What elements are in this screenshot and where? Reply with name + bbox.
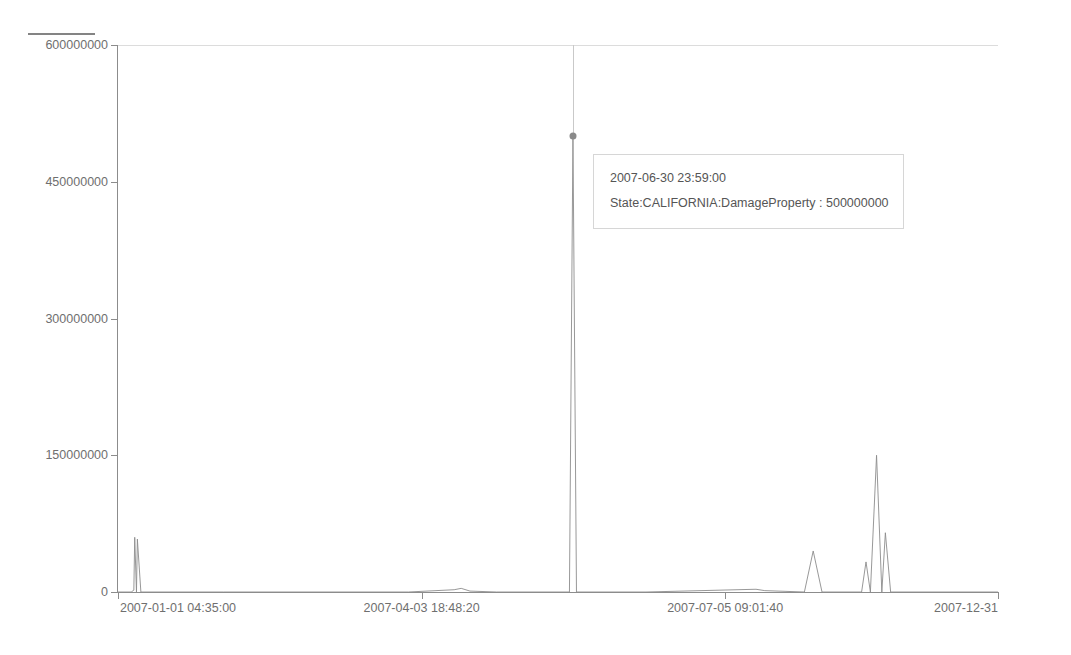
y-axis-tick-label: 300000000 — [4, 312, 108, 326]
y-axis-tick — [111, 45, 118, 46]
x-axis-tick-label: 2007-12-31 — [934, 601, 998, 615]
tooltip-measure: State:CALIFORNIA:DamageProperty : 500000… — [610, 191, 889, 215]
y-axis-tick-label: 0 — [4, 585, 108, 599]
crosshair-line — [573, 45, 574, 136]
tooltip-timestamp: 2007-06-30 23:59:00 — [610, 166, 889, 190]
x-axis-tick — [118, 592, 119, 599]
series-line-swatch-icon — [28, 33, 95, 35]
y-axis-tick-label: 450000000 — [4, 175, 108, 189]
x-axis-tick — [422, 592, 423, 599]
series-plot — [118, 45, 998, 593]
y-axis-tick — [111, 455, 118, 456]
y-axis-tick — [111, 319, 118, 320]
x-axis-tick-label: 2007-01-01 04:35:00 — [120, 601, 236, 615]
chart-title-strip — [0, 0, 1071, 13]
x-axis-tick — [998, 592, 999, 599]
tooltip: 2007-06-30 23:59:00 State:CALIFORNIA:Dam… — [593, 154, 904, 229]
y-axis-tick — [111, 592, 118, 593]
x-axis-tick — [725, 592, 726, 599]
hovered-data-point[interactable] — [569, 133, 576, 140]
y-axis-tick-label: 150000000 — [4, 448, 108, 462]
x-axis-tick-label: 2007-07-05 09:01:40 — [667, 601, 783, 615]
y-axis-tick — [111, 182, 118, 183]
x-axis-tick-label: 2007-04-03 18:48:20 — [364, 601, 480, 615]
time-series-chart: 0150000000300000000450000000600000000 20… — [0, 0, 1071, 655]
y-axis-tick-label: 600000000 — [4, 38, 108, 52]
